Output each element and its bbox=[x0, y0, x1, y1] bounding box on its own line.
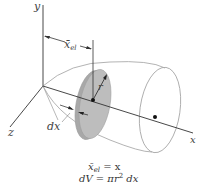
z-axis-label: z bbox=[7, 126, 14, 139]
centroid-distance-label: x̄el bbox=[64, 38, 77, 52]
thickness-label: dx bbox=[47, 120, 61, 133]
end-ellipse bbox=[134, 65, 186, 156]
z-axis bbox=[10, 86, 43, 127]
y-axis-label: y bbox=[33, 0, 41, 13]
diagram-canvas: y z x x̄el r dx x̄el = x dV = πr2 dx bbox=[0, 0, 201, 190]
x-axis-label: x bbox=[190, 134, 196, 145]
centroid-point bbox=[153, 115, 157, 119]
equation-volume: dV = πr2 dx bbox=[79, 172, 139, 184]
x-axis bbox=[43, 86, 193, 133]
disk-center-point bbox=[91, 98, 95, 102]
construction-line bbox=[43, 86, 58, 120]
